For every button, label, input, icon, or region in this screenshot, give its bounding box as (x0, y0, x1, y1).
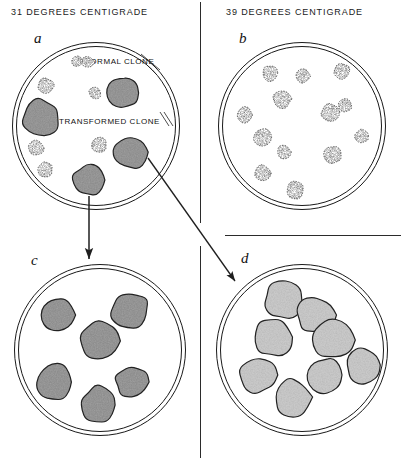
label-normal-clone: NORMAL CLONE (84, 57, 154, 66)
petri-dish-d-rim (220, 268, 384, 432)
heading-temperature-right: 39 DEGREES CENTIGRADE (226, 7, 363, 17)
petri-dish-c-rim (18, 268, 182, 432)
panel-letter-a: a (34, 30, 42, 47)
label-transformed-clone: TRANSFORMED CLONE (59, 117, 160, 126)
panel-letter-b: b (239, 30, 247, 47)
petri-dish-a-rim (16, 46, 176, 206)
vertical-divider (200, 2, 201, 223)
vertical-divider-lower (200, 246, 201, 458)
horizontal-divider (225, 235, 401, 236)
panel-letter-c: c (31, 252, 38, 269)
figure-canvas: 31 DEGREES CENTIGRADE 39 DEGREES CENTIGR… (0, 0, 401, 460)
heading-temperature-left: 31 DEGREES CENTIGRADE (11, 7, 148, 17)
petri-dish-b-rim (222, 46, 382, 206)
panel-letter-d: d (241, 250, 249, 267)
